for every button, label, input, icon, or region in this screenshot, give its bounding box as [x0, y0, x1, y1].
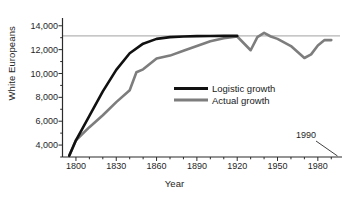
y-axis-tick-label: 8,000 — [14, 92, 58, 102]
x-axis-tick-label: 1830 — [106, 161, 126, 171]
y-axis-tick-label: 6,000 — [14, 116, 58, 126]
y-axis-title: White Europeans — [6, 27, 17, 101]
legend-item-label-0: Logistic growth — [212, 83, 275, 94]
y-axis-tick-label: 10,000 — [14, 69, 58, 79]
y-axis-tick-label: 12,000 — [14, 45, 58, 55]
x-axis-tick-label: 1920 — [227, 161, 247, 171]
y-axis-tick-label: 14,000 — [14, 21, 58, 31]
legend-item-label-1: Actual growth — [212, 95, 270, 106]
x-axis-tick-label: 1860 — [147, 161, 167, 171]
x-axis-title: Year — [0, 178, 349, 189]
series-line-actual-growth — [69, 33, 331, 156]
annotation-1990-leader-line — [316, 141, 338, 156]
x-axis-tick-label: 1800 — [66, 161, 86, 171]
y-axis-tick-label: 4,000 — [14, 140, 58, 150]
x-axis-tick-label: 1890 — [187, 161, 207, 171]
x-axis-tick-label: 1950 — [267, 161, 287, 171]
chart-container: White Europeans Year 4,0006,0008,00010,0… — [0, 0, 349, 200]
annotation-1990-label: 1990 — [296, 130, 316, 140]
x-axis-tick-label: 1980 — [308, 161, 328, 171]
